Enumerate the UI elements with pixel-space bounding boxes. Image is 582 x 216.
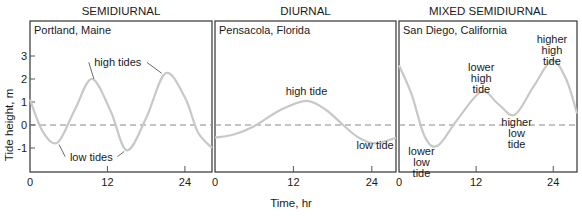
x-tick-label: 24 <box>547 176 559 188</box>
x-tick-label: 24 <box>179 176 191 188</box>
y-tick-label: 0 <box>21 119 27 131</box>
x-tick-label: 12 <box>470 176 482 188</box>
location-label: San Diego, California <box>403 24 508 36</box>
x-tick-label: 12 <box>101 176 113 188</box>
panel-title: MIXED SEMIDIURNAL <box>429 5 548 17</box>
tide-curve <box>30 73 212 150</box>
y-axis-title: Tide height, m <box>3 89 15 161</box>
panel-title: DIURNAL <box>280 5 331 17</box>
annotation-pointer <box>147 62 162 73</box>
location-label: Portland, Maine <box>34 24 111 36</box>
annotation-label: lowerhightide <box>468 61 495 95</box>
x-tick-label: 0 <box>212 176 218 188</box>
y-tick-label: 2 <box>21 73 27 85</box>
annotation-label: higherhightide <box>537 33 568 67</box>
annotation-label: low tides <box>70 151 113 163</box>
tide-chart: SEMIDIURNALPortland, Maine01224-10123hig… <box>0 0 582 216</box>
panel-mixed-semidiurnal: MIXED SEMIDIURNALSan Diego, California01… <box>396 5 577 188</box>
annotation-pointer <box>89 62 94 79</box>
annotation-label: low tide <box>356 139 393 151</box>
x-tick-label: 12 <box>287 176 299 188</box>
x-axis-title: Time, hr <box>270 197 312 209</box>
x-tick-label: 0 <box>396 176 402 188</box>
annotation-pointer <box>59 145 65 157</box>
tide-curve <box>215 101 396 144</box>
x-tick-label: 0 <box>27 176 33 188</box>
y-tick-label: -1 <box>17 142 27 154</box>
y-tick-label: 3 <box>21 50 27 62</box>
annotation-label: high tide <box>286 85 328 97</box>
tide-types-figure: SEMIDIURNALPortland, Maine01224-10123hig… <box>0 0 582 216</box>
x-tick-label: 24 <box>366 176 378 188</box>
annotation-label: high tides <box>94 56 142 68</box>
annotation-label: higherlowtide <box>501 116 532 150</box>
annotation-pointer <box>117 151 124 156</box>
panel-title: SEMIDIURNAL <box>82 5 161 17</box>
panel-semidiurnal: SEMIDIURNALPortland, Maine01224-10123hig… <box>17 5 212 188</box>
y-tick-label: 1 <box>21 96 27 108</box>
location-label: Pensacola, Florida <box>219 24 311 36</box>
panel-diurnal: DIURNALPensacola, Florida01224high tidel… <box>212 5 396 188</box>
annotation-label: lowerlowtide <box>408 145 435 179</box>
